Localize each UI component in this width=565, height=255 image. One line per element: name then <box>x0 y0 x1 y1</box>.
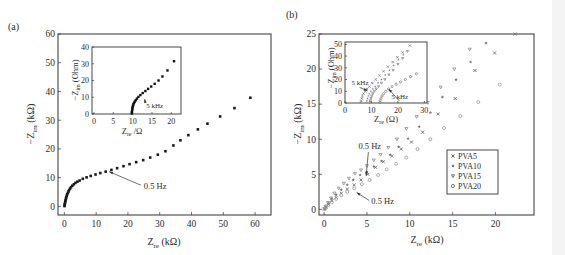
data-point <box>78 179 81 182</box>
y-tick-label: 0 <box>85 110 89 119</box>
legend-entry: PVA10 <box>458 162 481 171</box>
data-point <box>172 144 175 147</box>
figure-canvas: (a)01020304050600102030405060Zre (kΩ)−Zi… <box>0 0 565 255</box>
data-point <box>89 175 92 178</box>
annotation-label: 5 kHz <box>352 79 369 87</box>
annotation-label: 0.5 Hz <box>144 181 167 191</box>
data-point <box>81 178 84 181</box>
y-tick-label: 20 <box>307 64 317 74</box>
data-point <box>166 69 168 71</box>
x-tick-label: 10 <box>405 219 415 229</box>
data-point <box>141 92 143 94</box>
y-tick-label: 40 <box>46 87 56 97</box>
data-point <box>197 128 200 131</box>
y-tick-label: 20 <box>81 76 89 85</box>
panel-label-b: (b) <box>286 9 298 21</box>
data-point <box>164 150 167 153</box>
x-tick-label: 5 <box>365 219 370 229</box>
data-point <box>150 85 152 87</box>
y-tick-label: 15 <box>307 99 317 109</box>
legend-entry: PVA5 <box>458 152 477 161</box>
x-tick-label: 5 <box>111 117 115 126</box>
data-point <box>147 88 149 90</box>
panel-label-a: (a) <box>8 21 19 33</box>
data-point <box>110 169 113 172</box>
x-tick-label: 20 <box>167 117 175 126</box>
data-point <box>153 83 155 85</box>
annotation-label: 0.5 Hz <box>358 141 381 151</box>
legend-entry: PVA15 <box>458 172 481 181</box>
y-tick-label: 20 <box>46 144 56 154</box>
y-tick-label: 0 <box>311 205 316 215</box>
inset-y-label-a: −Zim (Ohm) <box>70 59 81 100</box>
annotation-label: 5 kHz <box>391 93 408 101</box>
inset-a-frame <box>92 47 181 114</box>
data-point <box>233 107 236 110</box>
y-tick-label: 10 <box>81 93 89 102</box>
x-tick-label: 15 <box>448 219 458 229</box>
data-point <box>76 180 79 183</box>
x-tick-label: 50 <box>219 219 229 229</box>
data-point <box>135 161 138 164</box>
y-tick-label: 10 <box>307 135 317 145</box>
inset-y-label-b: −Zim (Ohm) <box>326 47 337 88</box>
data-point <box>122 165 125 168</box>
data-point <box>139 94 141 96</box>
legend: PVA5PVA10PVA15PVA20 <box>447 150 498 194</box>
y-tick-label: 50 <box>46 58 56 68</box>
data-point <box>94 173 97 176</box>
x-tick-label: 0 <box>62 219 67 229</box>
data-point <box>104 170 107 173</box>
data-point <box>206 122 209 125</box>
x-tick-label: 10 <box>129 117 137 126</box>
y-tick-label: 0 <box>50 202 55 212</box>
x-tick-label: 0 <box>322 219 327 229</box>
x-tick-label: 30 <box>155 219 165 229</box>
data-point <box>173 60 175 62</box>
data-point <box>157 153 160 156</box>
y-tick-label: 5 <box>311 170 316 180</box>
data-point <box>157 79 159 81</box>
panel-a: (a)01020304050600102030405060Zre (kΩ)−Zi… <box>8 21 271 250</box>
y-tick-label: 40 <box>81 43 89 52</box>
x-tick-label: 10 <box>91 219 101 229</box>
annotation-label: 0.5 Hz <box>371 196 394 206</box>
x-axis-label-b: Zre (kΩ) <box>410 234 443 248</box>
x-tick-label: 0 <box>343 106 347 115</box>
y-tick-label: 60 <box>46 29 56 39</box>
x-tick-label: 60 <box>250 219 260 229</box>
y-axis-label-b: −Zim (kΩ) <box>292 104 306 145</box>
y-tick-label: 30 <box>46 116 56 126</box>
inset-x-label-a: Zre /Ω <box>122 126 143 137</box>
data-point <box>116 167 119 170</box>
data-point <box>249 96 252 99</box>
data-point <box>149 156 152 159</box>
data-point <box>142 159 145 162</box>
x-axis-label-a: Zre (kΩ) <box>147 236 180 250</box>
data-point <box>99 172 102 175</box>
y-tick-label: 30 <box>81 60 89 69</box>
x-tick-label: 0 <box>92 117 96 126</box>
data-point <box>144 90 146 92</box>
data-point <box>219 115 222 118</box>
x-tick-label: 30 <box>420 106 428 115</box>
data-point <box>85 176 88 179</box>
x-tick-label: 15 <box>148 117 156 126</box>
x-tick-label: 20 <box>491 219 501 229</box>
x-tick-label: 20 <box>123 219 133 229</box>
legend-entry: PVA20 <box>458 182 481 191</box>
y-tick-label: 10 <box>46 173 56 183</box>
y-tick-label: 0 <box>338 99 342 108</box>
data-point <box>187 134 190 137</box>
inset-b-frame <box>345 42 427 103</box>
y-tick-label: 25 <box>307 29 317 39</box>
data-point <box>179 139 182 142</box>
data-point <box>128 163 131 166</box>
annotation-label: 5 kHz <box>146 102 163 110</box>
data-point <box>161 75 163 77</box>
panel-b: (b)051015200510152025Zre (kΩ)−Zim (kΩ)0.… <box>286 9 534 248</box>
x-tick-label: 40 <box>187 219 197 229</box>
inset-x-label-b: Zre (Ω) <box>374 114 398 125</box>
y-axis-label-a: −Zim (kΩ) <box>25 104 39 145</box>
